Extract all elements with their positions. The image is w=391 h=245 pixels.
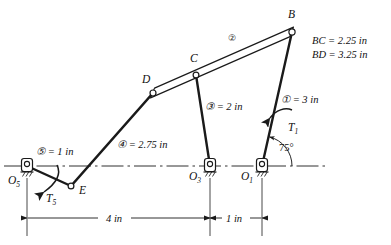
dimension-label-4in: 4 in	[106, 213, 122, 224]
pin-circle-E	[68, 183, 74, 189]
pin-circle-C	[193, 72, 199, 78]
pivot-pin-O5	[24, 161, 29, 166]
link-2-number-label: ②	[228, 33, 236, 43]
fixed-pivot-O1	[256, 159, 269, 177]
link-3-body	[196, 75, 210, 166]
joint-label-E: E	[78, 184, 86, 196]
pivot-pin-O1	[259, 161, 264, 166]
link-3-line	[196, 75, 210, 166]
coupler-dim-BD: BD = 3.25 in	[312, 49, 368, 60]
joint-label-O5: O5	[8, 174, 20, 189]
link-5-length-label: ⑤ = 1 in	[36, 146, 73, 157]
pivot-pin-O3	[207, 161, 212, 166]
link-5-line	[27, 166, 71, 186]
linkage-diagram: B C D E O1 O3 O5 ② ① = 3 in ③ = 2 in ④ =…	[0, 0, 391, 245]
joint-label-D: D	[141, 73, 151, 85]
joint-label-C: C	[190, 52, 198, 64]
pin-joint-D	[150, 90, 156, 96]
link-3-length-label: ③ = 2 in	[205, 101, 242, 112]
torque-label-T1: T1	[288, 121, 298, 136]
link-2-bar-outline	[151, 27, 294, 98]
dimension-label-1in: 1 in	[226, 213, 242, 224]
link-1-length-label: ① = 3 in	[281, 94, 318, 105]
pin-joint-E	[68, 183, 74, 189]
angle-label-75: 75°	[279, 142, 294, 153]
torque-T5-group	[44, 165, 59, 192]
joint-label-B: B	[288, 8, 295, 20]
coupler-dim-BC: BC = 2.25 in	[312, 35, 367, 46]
joint-label-O1: O1	[241, 170, 253, 185]
torque-T5-arrow	[44, 165, 59, 192]
fixed-pivot-O3	[204, 159, 217, 177]
pin-circle-D	[150, 90, 156, 96]
link-5-body	[27, 166, 71, 186]
pin-joint-C	[193, 72, 199, 78]
torque-label-T5: T5	[46, 192, 56, 207]
pivot-hatch-O3	[206, 172, 216, 177]
dimension-group	[27, 178, 262, 236]
link-4-length-label: ④ = 2.75 in	[117, 139, 168, 150]
pin-joint-B	[289, 29, 295, 35]
fixed-pivot-O5	[21, 159, 34, 177]
link-2-coupler-bar	[151, 27, 294, 98]
joint-label-O3: O3	[189, 170, 201, 185]
linkage-diagram-canvas: B C D E O1 O3 O5 ② ① = 3 in ③ = 2 in ④ =…	[0, 0, 391, 245]
pivot-hatch-O5	[23, 172, 33, 177]
pivot-hatch-O1	[258, 172, 268, 177]
pin-circle-B	[289, 29, 295, 35]
